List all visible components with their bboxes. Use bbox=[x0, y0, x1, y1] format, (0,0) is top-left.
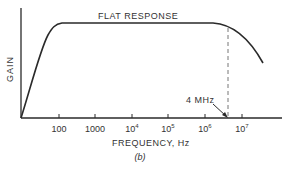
x-tick-label: 1000 bbox=[85, 123, 105, 134]
x-tick-label: 107 bbox=[235, 123, 248, 134]
x-axis-label: FREQUENCY, Hz bbox=[112, 138, 190, 148]
x-tick-label: 100 bbox=[51, 123, 66, 134]
flat-response-label: FLAT RESPONSE bbox=[98, 11, 178, 21]
gain-curve bbox=[21, 23, 263, 118]
cutoff-annotation: 4 MHz bbox=[186, 95, 215, 105]
x-tick-label: 104 bbox=[125, 123, 138, 134]
y-axis-label: GAIN bbox=[5, 56, 15, 82]
x-tick-label: 106 bbox=[198, 123, 211, 134]
x-tick-label: 105 bbox=[161, 123, 174, 134]
figure-caption: (b) bbox=[135, 152, 146, 162]
